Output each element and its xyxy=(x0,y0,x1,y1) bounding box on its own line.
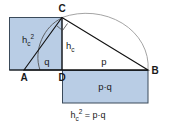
altitude-label-sub: c xyxy=(71,46,75,53)
caption-formula: hc2 = p·q xyxy=(70,108,105,122)
diagram-canvas: A B C D q p hc hc2 p·q hc2 = p·q xyxy=(0,0,169,125)
segment-label-p: p xyxy=(101,56,106,67)
altitude-label-hc: hc xyxy=(66,40,75,53)
geometry-figure: A B C D q p hc hc2 p·q hc2 = p·q xyxy=(0,0,169,125)
rectangle-area-label: p·q xyxy=(98,81,112,92)
vertex-label-a: A xyxy=(20,72,27,83)
vertex-label-c: C xyxy=(58,3,65,14)
segment-label-q: q xyxy=(44,56,49,67)
square-hc-squared xyxy=(10,18,63,71)
vertex-label-b: B xyxy=(151,65,158,76)
caption-relation: = p·q xyxy=(82,110,105,120)
caption-sub: c xyxy=(75,115,79,122)
vertex-label-d: D xyxy=(58,72,65,83)
square-area-sup: 2 xyxy=(31,33,35,40)
